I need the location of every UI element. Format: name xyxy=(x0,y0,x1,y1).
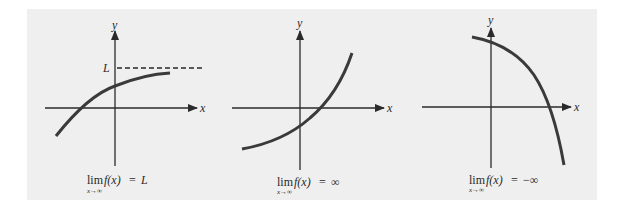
svg-text:x→∞: x→∞ xyxy=(276,188,292,196)
svg-text:lim: lim xyxy=(277,175,294,189)
curve xyxy=(56,73,170,136)
x-axis-label: x xyxy=(573,100,580,114)
graph-limit-neg-infinity: y x lim x→∞ f(x) = −∞ xyxy=(422,13,580,194)
curve xyxy=(472,37,564,165)
svg-text:=: = xyxy=(129,173,136,187)
svg-text:lim: lim xyxy=(87,173,104,187)
caption: lim x→∞ f(x) = ∞ xyxy=(276,175,340,196)
limits-at-infinity-diagram: y x L lim x→∞ f(x) = L y x lim x→∞ f(x) … xyxy=(0,0,626,206)
svg-text:L: L xyxy=(140,173,148,187)
svg-text:−∞: −∞ xyxy=(523,173,538,187)
caption: lim x→∞ f(x) = L xyxy=(86,173,148,195)
svg-text:f(x): f(x) xyxy=(486,173,503,187)
svg-text:=: = xyxy=(511,173,518,187)
y-axis-label: y xyxy=(296,16,303,30)
caption: lim x→∞ f(x) = −∞ xyxy=(468,173,538,194)
asymptote-label: L xyxy=(102,61,110,75)
svg-text:=: = xyxy=(319,175,326,189)
graph-limit-infinity: y x lim x→∞ f(x) = ∞ xyxy=(232,16,393,196)
svg-text:f(x): f(x) xyxy=(104,173,121,187)
x-axis-label: x xyxy=(199,101,206,115)
svg-text:x→∞: x→∞ xyxy=(468,186,484,194)
svg-text:lim: lim xyxy=(469,173,486,187)
svg-text:∞: ∞ xyxy=(331,175,340,189)
svg-text:f(x): f(x) xyxy=(294,175,311,189)
y-axis-label: y xyxy=(487,13,494,27)
svg-text:x→∞: x→∞ xyxy=(86,187,102,195)
curve xyxy=(242,53,352,149)
y-axis-label: y xyxy=(111,18,118,32)
x-axis-label: x xyxy=(386,101,393,115)
graph-limit-L: y x L lim x→∞ f(x) = L xyxy=(45,18,206,195)
